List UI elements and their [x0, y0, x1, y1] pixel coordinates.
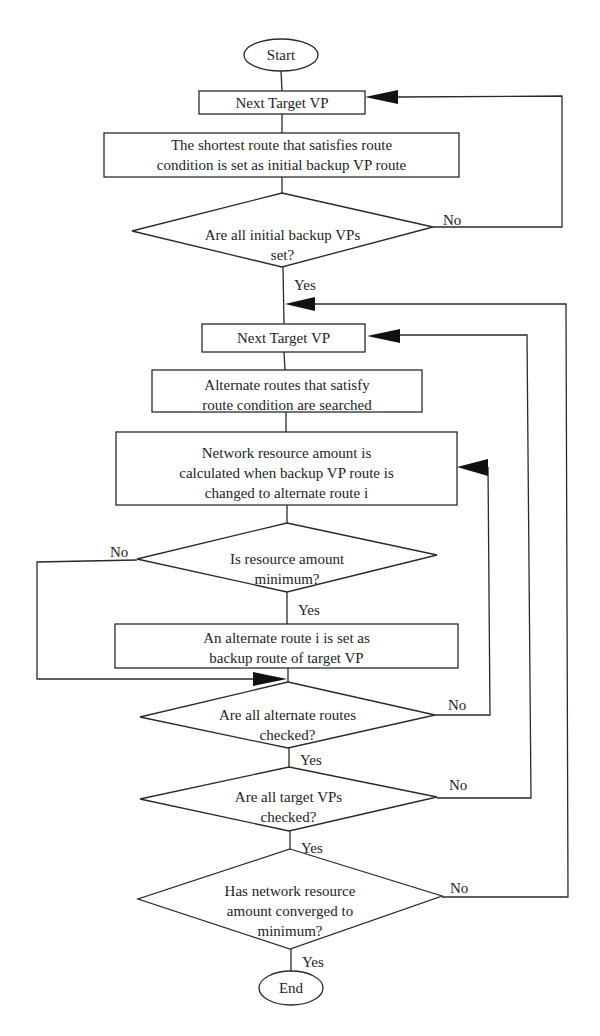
is-minimum-label: Is resource amount minimum?	[137, 549, 437, 589]
start-label: Start	[244, 45, 318, 65]
all-alternate-checked-line-2: checked?	[140, 725, 435, 745]
all-target-checked-label: Are all target VPs checked?	[140, 787, 437, 827]
all-initial-set-line-2: set?	[132, 245, 433, 265]
search-alternate-line-2: route condition are searched	[152, 395, 422, 415]
edge-label-d3-no: No	[448, 697, 466, 713]
converged-line-2: amount converged to	[138, 901, 442, 921]
set-alternate-line-1: An alternate route i is set as	[115, 628, 458, 648]
is-minimum-line-1: Is resource amount	[137, 549, 437, 569]
all-initial-set-label: Are all initial backup VPs set?	[132, 225, 433, 265]
edge-label-d1-no: No	[443, 212, 461, 228]
is-minimum-line-2: minimum?	[137, 569, 437, 589]
calc-resource-line-2: calculated when backup VP route is	[116, 463, 457, 483]
arrowhead-icon	[285, 297, 315, 311]
arrowhead-icon	[457, 459, 488, 476]
start-text: Start	[244, 45, 318, 65]
edge-label-d3-yes: Yes	[300, 752, 322, 768]
arrowhead-icon	[365, 90, 398, 104]
all-target-checked-line-2: checked?	[140, 807, 437, 827]
all-alternate-checked-label: Are all alternate routes checked?	[140, 705, 435, 745]
next-target-vp-2-text: Next Target VP	[202, 328, 365, 348]
edge-label-d4-no: No	[449, 777, 467, 793]
edge-label-d2-yes: Yes	[298, 602, 320, 618]
edge-label-d4-yes: Yes	[301, 840, 323, 856]
search-alternate-line-1: Alternate routes that satisfy	[152, 375, 422, 395]
next-target-vp-1-text: Next Target VP	[199, 93, 365, 113]
all-target-checked-line-1: Are all target VPs	[140, 787, 437, 807]
set-alternate-line-2: backup route of target VP	[115, 648, 458, 668]
end-text: End	[259, 978, 323, 998]
next-target-vp-1-label: Next Target VP	[199, 93, 365, 113]
converged-line-3: minimum?	[138, 921, 442, 941]
all-alternate-checked-line-1: Are all alternate routes	[140, 705, 435, 725]
edge-label-d2-no: No	[110, 544, 128, 560]
end-label: End	[259, 978, 323, 998]
flowchart: Start Next Target VP The shortest route …	[0, 0, 600, 1036]
converged-line-1: Has network resource	[138, 881, 442, 901]
set-alternate-label: An alternate route i is set as backup ro…	[115, 628, 458, 668]
arrowhead-icon	[367, 329, 400, 343]
all-initial-set-line-1: Are all initial backup VPs	[132, 225, 433, 245]
calc-resource-line-1: Network resource amount is	[116, 443, 457, 463]
edge-label-d5-yes: Yes	[302, 954, 324, 970]
set-initial-backup-label: The shortest route that satisfies route …	[104, 135, 459, 175]
calc-resource-line-3: changed to alternate route i	[116, 483, 457, 503]
next-target-vp-2-label: Next Target VP	[202, 328, 365, 348]
set-initial-backup-line-1: The shortest route that satisfies route	[104, 135, 459, 155]
set-initial-backup-line-2: condition is set as initial backup VP ro…	[104, 155, 459, 175]
search-alternate-label: Alternate routes that satisfy route cond…	[152, 375, 422, 415]
edge-label-d1-yes: Yes	[294, 277, 316, 293]
converged-label: Has network resource amount converged to…	[138, 881, 442, 941]
calc-resource-label: Network resource amount is calculated wh…	[116, 443, 457, 503]
edge-label-d5-no: No	[450, 880, 468, 896]
